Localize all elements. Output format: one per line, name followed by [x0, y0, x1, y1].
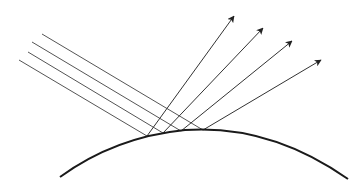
incident-ray-2 [28, 52, 163, 133]
incident-ray-4 [42, 34, 203, 130]
incident-ray-3 [32, 42, 181, 131]
incident-ray-1 [19, 60, 147, 136]
reflected-rays [147, 16, 321, 136]
reflected-ray-arrow-3 [181, 41, 292, 131]
reflected-ray-arrow-2 [163, 28, 263, 133]
reflection-diagram [0, 0, 364, 188]
curved-surface [60, 129, 348, 179]
reflected-ray-arrow-4 [203, 60, 321, 130]
reflected-ray-arrow-1 [147, 16, 234, 136]
